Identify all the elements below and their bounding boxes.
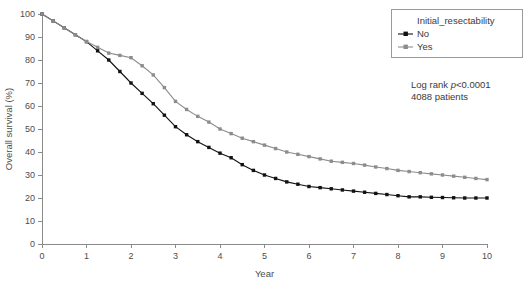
data-point-marker — [218, 151, 221, 154]
data-point-marker — [330, 187, 333, 190]
data-point-marker — [307, 155, 310, 158]
data-point-marker — [152, 73, 155, 76]
data-point-marker — [396, 169, 399, 172]
y-axis-title: Overall survival (%) — [3, 88, 14, 170]
data-point-marker — [252, 140, 255, 143]
data-point-marker — [430, 172, 433, 175]
data-point-marker — [140, 92, 143, 95]
data-point-marker — [40, 12, 43, 15]
data-point-marker — [474, 196, 477, 199]
data-point-marker — [452, 196, 455, 199]
legend-label-no: No — [417, 28, 429, 39]
data-point-marker — [85, 40, 88, 43]
patient-count-annotation: 4088 patients — [411, 91, 468, 102]
data-point-marker — [163, 86, 166, 89]
data-point-marker — [352, 189, 355, 192]
y-tick-label: 80 — [25, 55, 35, 65]
legend-label-yes: Yes — [417, 41, 433, 52]
data-point-marker — [296, 153, 299, 156]
survival-chart-figure: 0102030405060708090100 012345678910 Over… — [0, 0, 526, 281]
data-point-marker — [407, 170, 410, 173]
x-tick-label: 2 — [128, 251, 133, 261]
data-point-marker — [374, 165, 377, 168]
data-point-marker — [241, 137, 244, 140]
data-point-marker — [129, 56, 132, 59]
data-point-marker — [207, 120, 210, 123]
data-point-marker — [485, 178, 488, 181]
legend-marker-no — [404, 32, 408, 36]
x-tick-label: 5 — [262, 251, 267, 261]
data-point-marker — [74, 33, 77, 36]
x-tick-label: 1 — [84, 251, 89, 261]
log-rank-annotation: Log rank p<0.0001 — [411, 79, 491, 90]
data-point-marker — [363, 163, 366, 166]
y-tick-label: 10 — [25, 216, 35, 226]
data-point-marker — [229, 132, 232, 135]
data-point-marker — [163, 114, 166, 117]
x-axis-title: Year — [255, 268, 274, 279]
statistics-annotation: Log rank p<0.00014088 patients — [411, 79, 491, 102]
data-point-marker — [318, 157, 321, 160]
data-point-marker — [129, 81, 132, 84]
data-point-marker — [374, 192, 377, 195]
y-tick-label: 0 — [30, 239, 35, 249]
data-point-marker — [107, 51, 110, 54]
y-tick-label: 90 — [25, 32, 35, 42]
data-point-marker — [318, 186, 321, 189]
data-point-marker — [107, 58, 110, 61]
data-point-marker — [307, 185, 310, 188]
data-point-marker — [118, 54, 121, 57]
x-tick-label: 7 — [351, 251, 356, 261]
x-tick-label: 0 — [39, 251, 44, 261]
chart-canvas: 0102030405060708090100 012345678910 Over… — [0, 0, 526, 281]
legend-marker-yes — [404, 45, 408, 49]
x-tick-label: 6 — [306, 251, 311, 261]
x-tick-label: 4 — [217, 251, 222, 261]
data-point-marker — [407, 195, 410, 198]
x-axis-ticks: 012345678910 — [39, 244, 492, 261]
data-point-marker — [285, 150, 288, 153]
data-point-marker — [274, 177, 277, 180]
y-tick-label: 30 — [25, 170, 35, 180]
data-point-marker — [51, 19, 54, 22]
data-point-marker — [452, 174, 455, 177]
y-tick-label: 50 — [25, 124, 35, 134]
data-point-marker — [419, 195, 422, 198]
data-point-marker — [352, 162, 355, 165]
data-point-marker — [263, 173, 266, 176]
y-tick-label: 20 — [25, 193, 35, 203]
data-point-marker — [274, 147, 277, 150]
chart-legend: Initial_resectability NoYes — [391, 9, 522, 57]
data-point-marker — [419, 171, 422, 174]
data-point-marker — [152, 102, 155, 105]
y-axis-ticks: 0102030405060708090100 — [20, 9, 42, 249]
data-point-marker — [140, 64, 143, 67]
data-point-marker — [185, 108, 188, 111]
data-point-marker — [174, 100, 177, 103]
x-tick-label: 10 — [482, 251, 492, 261]
data-point-marker — [330, 160, 333, 163]
data-point-marker — [263, 143, 266, 146]
data-point-marker — [296, 183, 299, 186]
data-point-marker — [229, 156, 232, 159]
data-point-marker — [463, 176, 466, 179]
data-point-marker — [441, 196, 444, 199]
data-point-marker — [207, 146, 210, 149]
data-point-marker — [218, 127, 221, 130]
data-point-marker — [118, 70, 121, 73]
data-point-marker — [441, 173, 444, 176]
data-point-marker — [430, 196, 433, 199]
data-point-marker — [63, 26, 66, 29]
data-point-marker — [363, 191, 366, 194]
data-point-marker — [185, 133, 188, 136]
x-tick-label: 8 — [395, 251, 400, 261]
y-tick-label: 100 — [20, 9, 35, 19]
y-tick-label: 40 — [25, 147, 35, 157]
data-point-marker — [385, 167, 388, 170]
y-tick-label: 60 — [25, 101, 35, 111]
data-point-marker — [252, 169, 255, 172]
data-point-marker — [341, 161, 344, 164]
x-tick-label: 3 — [173, 251, 178, 261]
data-point-marker — [485, 196, 488, 199]
data-point-marker — [174, 125, 177, 128]
